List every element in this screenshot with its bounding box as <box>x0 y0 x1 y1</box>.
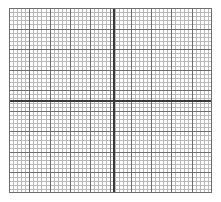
minor-gridlines <box>9 8 212 193</box>
x-axis-line <box>9 100 212 102</box>
major-gridlines <box>9 8 212 193</box>
plot-border <box>9 8 212 193</box>
plot-area[interactable] <box>9 8 212 193</box>
y-axis-line <box>113 8 115 193</box>
chart-figure <box>0 0 221 202</box>
